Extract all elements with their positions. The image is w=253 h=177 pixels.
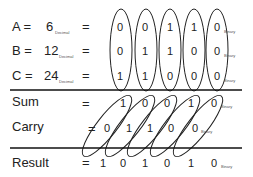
- binary-unit: Binary: [224, 53, 235, 58]
- bit: 0: [211, 157, 217, 169]
- bit: 0: [214, 45, 220, 57]
- bit: 0: [120, 157, 126, 169]
- label-c: C =: [12, 68, 33, 83]
- bit: 1: [120, 97, 126, 109]
- bit: 1: [100, 157, 106, 169]
- bit: 1: [117, 70, 123, 82]
- unit-a: Decimal: [55, 30, 70, 35]
- bit: 0: [214, 70, 220, 82]
- label-result: Result: [12, 155, 49, 170]
- bit: 1: [126, 122, 132, 134]
- bit: 1: [147, 122, 153, 134]
- bit: 1: [188, 157, 194, 169]
- label-sum: Sum: [12, 94, 39, 109]
- label-a: A =: [12, 19, 31, 34]
- equals: =: [82, 68, 90, 83]
- value-c: 24: [44, 68, 58, 83]
- bit: 1: [142, 157, 148, 169]
- binary-unit: Binary: [224, 78, 235, 83]
- bit: 0: [117, 45, 123, 57]
- equals: =: [88, 121, 96, 136]
- bit: 0: [168, 122, 174, 134]
- bit: 1: [142, 45, 148, 57]
- value-b: 12: [44, 43, 58, 58]
- bit: 0: [192, 122, 198, 134]
- bit: 1: [167, 21, 173, 33]
- equals: =: [82, 155, 90, 170]
- row-c: C = 24 Decimal = 1 1 0 0 0 Binary: [12, 68, 235, 84]
- bit: 0: [164, 97, 170, 109]
- bit: 1: [188, 97, 194, 109]
- bit: 0: [167, 70, 173, 82]
- bit: 0: [191, 45, 197, 57]
- value-a: 6: [46, 19, 53, 34]
- binary-unit: Binary: [201, 129, 212, 134]
- bit: 0: [191, 70, 197, 82]
- binary-unit: Binary: [221, 164, 232, 169]
- bit: 0: [142, 21, 148, 33]
- equals: =: [82, 96, 90, 111]
- unit-c: Decimal: [59, 79, 74, 84]
- bit: 0: [214, 21, 220, 33]
- bit: 1: [142, 70, 148, 82]
- bit: 0: [104, 122, 110, 134]
- bit: 0: [142, 97, 148, 109]
- equals: =: [82, 19, 90, 34]
- binary-unit: Binary: [224, 29, 235, 34]
- bit: 1: [191, 21, 197, 33]
- label-b: B =: [12, 43, 32, 58]
- row-result: Result = 1 0 1 0 1 0 Binary: [12, 155, 232, 170]
- label-carry: Carry: [12, 119, 44, 134]
- bit: 0: [211, 97, 217, 109]
- binary-addition-diagram: A = 6 Decimal = 0 0 1 1 0 Binary B = 12 …: [0, 0, 253, 177]
- bit: 0: [117, 21, 123, 33]
- row-b: B = 12 Decimal = 0 1 1 0 0 Binary: [12, 43, 235, 59]
- binary-unit: Binary: [221, 104, 232, 109]
- bit: 0: [164, 157, 170, 169]
- equals: =: [82, 43, 90, 58]
- bit: 1: [167, 45, 173, 57]
- unit-b: Decimal: [59, 54, 74, 59]
